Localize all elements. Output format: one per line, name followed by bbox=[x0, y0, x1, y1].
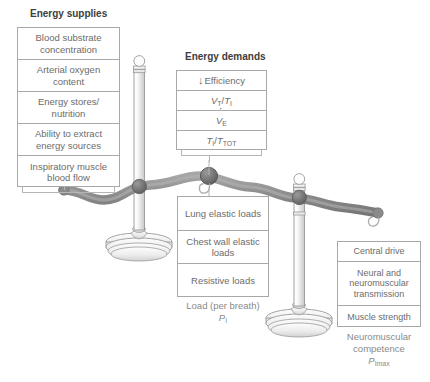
demands-drop-wire bbox=[209, 155, 210, 162]
formula-ve: VE bbox=[216, 115, 227, 126]
load-caption-line1: Load (per breath) bbox=[167, 300, 279, 312]
nm-item-neural-transmission: Neural and neuromuscular transmission bbox=[338, 262, 420, 306]
demands-item-efficiency: ↓Efficiency bbox=[177, 71, 266, 91]
energy-supplies-title: Energy supplies bbox=[30, 8, 107, 19]
energy-supplies-box: Blood substrate concentration Arterial o… bbox=[17, 27, 120, 187]
nm-item-muscle-strength: Muscle strength bbox=[338, 306, 420, 328]
formula-ti-ttot: TI/TTOT bbox=[207, 135, 237, 146]
down-arrow-icon: ↓ bbox=[198, 74, 204, 87]
supplies-item-arterial-oxygen: Arterial oxygen content bbox=[18, 60, 119, 92]
supplies-item-extract-energy: Ability to extract energy sources bbox=[18, 124, 119, 156]
nm-caption-line1: Neuromuscular bbox=[333, 331, 425, 343]
load-caption-symbol: PI bbox=[167, 312, 279, 324]
demands-item-ti-ttot: TI/TTOT bbox=[177, 131, 266, 151]
demands-item-ve: VE bbox=[177, 111, 266, 131]
neuromuscular-box: Central drive Neural and neuromuscular t… bbox=[337, 241, 421, 327]
nm-caption-line2: competence bbox=[333, 343, 425, 355]
load-item-chest-wall-elastic: Chest wall elastic loads bbox=[178, 231, 268, 265]
load-box: Lung elastic loads Chest wall elastic lo… bbox=[177, 196, 269, 297]
energy-demands-box: ↓Efficiency VT/TI VE TI/TTOT bbox=[176, 70, 267, 150]
formula-vt-ti: VT/TI bbox=[211, 95, 232, 106]
supplies-item-energy-stores: Energy stores/ nutrition bbox=[18, 92, 119, 124]
neuromuscular-caption: Neuromuscular competence PImax bbox=[333, 331, 425, 367]
energy-demands-title: Energy demands bbox=[185, 51, 266, 62]
load-item-lung-elastic: Lung elastic loads bbox=[178, 197, 268, 231]
demands-efficiency-label: Efficiency bbox=[205, 75, 245, 86]
supplies-item-inspiratory-blood-flow: Inspiratory muscle blood flow bbox=[18, 156, 119, 188]
nm-item-central-drive: Central drive bbox=[338, 242, 420, 262]
load-item-resistive: Resistive loads bbox=[178, 264, 268, 298]
figure-canvas: Energy supplies Blood substrate concentr… bbox=[0, 0, 430, 382]
load-caption: Load (per breath) PI bbox=[167, 300, 279, 324]
nm-caption-symbol: PImax bbox=[333, 355, 425, 367]
supplies-item-blood-substrate: Blood substrate concentration bbox=[18, 28, 119, 60]
